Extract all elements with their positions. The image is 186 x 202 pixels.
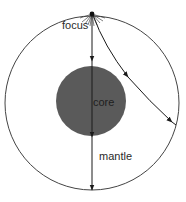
mantle-label: mantle — [99, 150, 132, 162]
focus-label: focus — [62, 19, 89, 31]
focus-point — [90, 12, 95, 17]
core-label: core — [93, 96, 114, 108]
core-circle — [56, 66, 126, 136]
earth-seismic-diagram: focus core mantle — [0, 0, 186, 202]
